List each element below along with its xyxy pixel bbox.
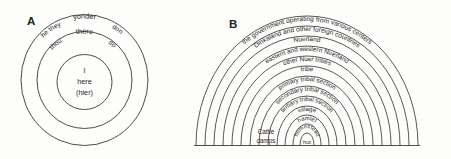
panel-b-label-cattle-camps-line2: camps	[257, 137, 276, 145]
panel-b-label-homestead: homestead	[293, 123, 322, 137]
panel-b-arc-5-text: tribe	[300, 65, 314, 72]
panel-b-arc-9-text: village	[297, 105, 318, 114]
panel-b-label-cattle-camps-line1: Cattle	[258, 128, 275, 135]
panel-b-arc-4-text: other Nuer tribes	[282, 55, 333, 67]
panel-a-label-yonder: yonder	[72, 11, 97, 21]
panel-a-label-he-they: he they	[39, 20, 62, 39]
panel-a-diagram: A yonder he they don there thou do I her…	[0, 0, 451, 159]
panel-a-label: A	[27, 15, 36, 27]
panel-a-label-do: do	[107, 38, 118, 48]
panel-a-thou-text: thou	[48, 37, 63, 51]
panel-a-label-here: here	[77, 77, 92, 86]
panel-a-label-i: I	[83, 66, 85, 75]
panel-a-yonder-text: yonder	[72, 11, 97, 21]
panel-a-label-thou: thou	[48, 37, 63, 51]
panel-b-label-village: village	[297, 105, 318, 114]
figure-root: A yonder he they don there thou do I her…	[0, 0, 451, 159]
panel-b-label: B	[229, 18, 238, 30]
panel-b-label-tribe: tribe	[300, 65, 314, 72]
panel-a-label-hier: (hier)	[76, 88, 93, 97]
panel-b-label-hut: hut	[303, 139, 311, 145]
panel-b-arc-11-text: homestead	[293, 123, 322, 137]
panel-a-there-text: there	[75, 26, 94, 36]
panel-a-label-there: there	[75, 26, 94, 36]
panel-a-he-they-text: he they	[39, 20, 62, 39]
panel-b-label-other-nuer-tribes: other Nuer tribes	[282, 55, 333, 67]
panel-a-do-text: do	[107, 38, 118, 48]
